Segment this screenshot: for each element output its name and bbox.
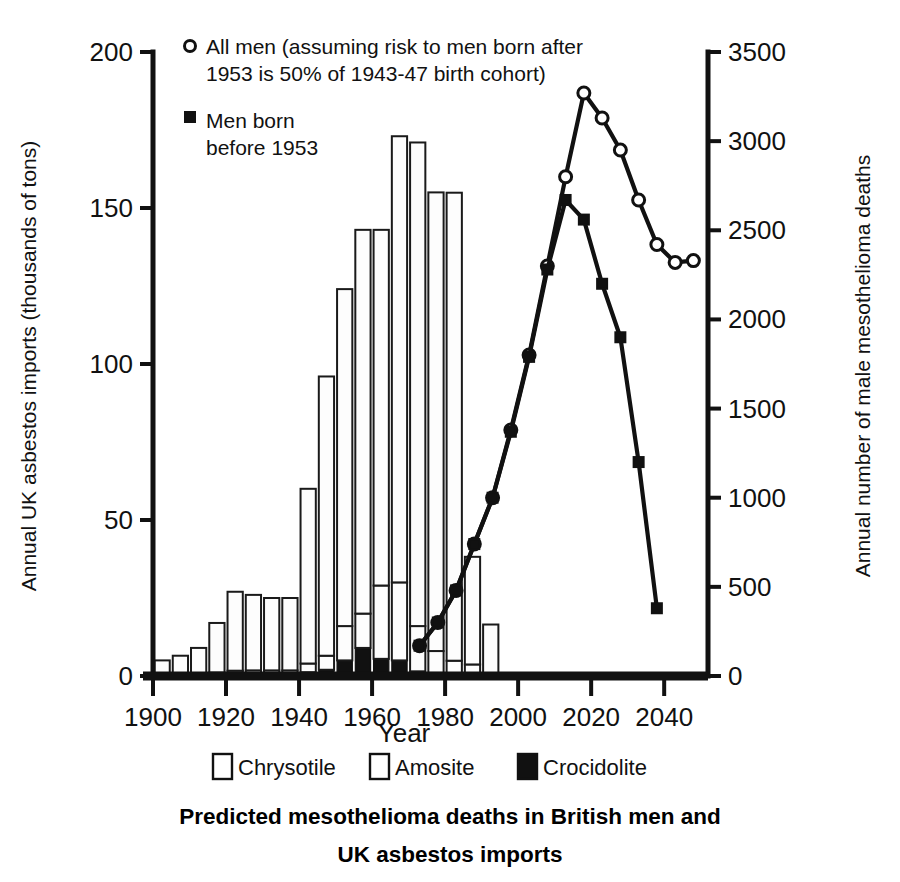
marker-filled-square-2013 — [561, 195, 571, 205]
bars-group — [155, 136, 499, 676]
x-tick-label-1920: 1920 — [197, 702, 255, 732]
x-axis-title: Year — [378, 718, 431, 748]
chrysotile-label: Chrysotile — [238, 755, 336, 780]
legend-series1-line2: 1953 is 50% of 1943-47 birth cohort) — [206, 62, 546, 85]
bar-segment-amosite-1940 — [301, 664, 316, 673]
open-circle-marker — [185, 41, 196, 52]
left-tick-label-0: 0 — [119, 661, 133, 691]
crocidolite-swatch — [518, 754, 537, 779]
left-tick-label-100: 100 — [90, 349, 133, 379]
bar-segment-amosite-1975 — [428, 651, 443, 673]
legend-series1-line1: All men (assuming risk to men born after — [206, 35, 583, 58]
bar-segment-chrysotile-1960 — [374, 230, 389, 586]
series-legend: All men (assuming risk to men born after… — [185, 35, 583, 159]
marker-filled-square-2008 — [542, 265, 552, 275]
left-tick-label-200: 200 — [90, 37, 133, 67]
bar-segment-chrysotile-1970 — [410, 142, 425, 626]
right-axis-title: Annual number of male mesothelioma death… — [851, 155, 874, 578]
marker-filled-square-2003 — [524, 352, 534, 362]
bar-segment-chrysotile-1925 — [246, 595, 261, 671]
marker-filled-square-1993 — [488, 493, 498, 503]
marker-open-circle-2043 — [669, 256, 681, 268]
chart-title-line1: Predicted mesothelioma deaths in British… — [179, 804, 720, 829]
fill-key: Chrysotile Amosite Crocidolite — [213, 754, 647, 780]
x-tick-label-1900: 1900 — [124, 702, 182, 732]
right-tick-label-500: 500 — [728, 572, 771, 602]
x-tick-label-2040: 2040 — [635, 702, 693, 732]
marker-open-circle-2033 — [633, 194, 645, 206]
right-tick-label-2000: 2000 — [728, 304, 786, 334]
chrysotile-swatch — [213, 754, 232, 779]
right-tick-label-2500: 2500 — [728, 215, 786, 245]
bar-segment-chrysotile-1940 — [301, 489, 316, 664]
bar-segment-amosite-1965 — [392, 582, 407, 660]
right-tick-label-1500: 1500 — [728, 394, 786, 424]
bar-segment-chrysotile-1955 — [355, 230, 370, 614]
marker-filled-square-1983 — [451, 585, 461, 595]
marker-open-circle-2023 — [596, 112, 608, 124]
marker-filled-square-1998 — [506, 427, 516, 437]
marker-filled-square-2028 — [615, 332, 625, 342]
bar-segment-chrysotile-1910 — [191, 648, 206, 673]
bar-segment-amosite-1945 — [319, 656, 334, 670]
marker-open-circle-2048 — [687, 255, 699, 267]
legend-series2-line2: before 1953 — [206, 136, 318, 159]
chart-title-line2: UK asbestos imports — [337, 842, 562, 867]
bar-segment-amosite-1950 — [337, 626, 352, 660]
bar-segment-chrysotile-1920 — [228, 592, 243, 671]
amosite-swatch — [370, 754, 389, 779]
bar-segment-chrysotile-1930 — [264, 598, 279, 670]
x-tick-label-2020: 2020 — [562, 702, 620, 732]
bar-segment-chrysotile-1990 — [483, 625, 498, 675]
marker-filled-square-1973 — [415, 641, 425, 651]
bar-segment-chrysotile-1965 — [392, 136, 407, 582]
marker-filled-square-2033 — [634, 457, 644, 467]
bar-segment-chrysotile-1945 — [319, 376, 334, 655]
marker-filled-square-1988 — [469, 539, 479, 549]
amosite-label: Amosite — [395, 755, 474, 780]
chart-svg: 0501001502000500100015002000250030003500… — [0, 0, 900, 882]
bar-segment-chrysotile-1905 — [173, 656, 188, 674]
bar-segment-chrysotile-1985 — [465, 557, 480, 665]
marker-open-circle-2013 — [560, 171, 572, 183]
filled-square-marker — [185, 112, 195, 122]
marker-open-circle-2028 — [614, 144, 626, 156]
left-tick-label-50: 50 — [104, 505, 133, 535]
bar-segment-amosite-1955 — [355, 614, 370, 648]
x-tick-label-1940: 1940 — [270, 702, 328, 732]
legend-series2-line1: Men born — [206, 109, 295, 132]
bar-segment-chrysotile-1935 — [282, 598, 297, 670]
marker-filled-square-2023 — [597, 279, 607, 289]
marker-filled-square-2038 — [652, 603, 662, 613]
right-tick-label-0: 0 — [728, 661, 742, 691]
marker-open-circle-2018 — [578, 87, 590, 99]
bar-segment-amosite-1960 — [374, 586, 389, 659]
marker-filled-square-1978 — [433, 618, 443, 628]
left-axis-title: Annual UK asbestos imports (thousands of… — [17, 141, 40, 592]
bar-segment-chrysotile-1975 — [428, 192, 443, 651]
marker-filled-square-2018 — [579, 215, 589, 225]
bar-segment-chrysotile-1950 — [337, 289, 352, 626]
right-tick-label-3500: 3500 — [728, 37, 786, 67]
chart-figure: 0501001502000500100015002000250030003500… — [0, 0, 900, 882]
left-tick-label-150: 150 — [90, 193, 133, 223]
right-tick-label-1000: 1000 — [728, 483, 786, 513]
marker-open-circle-2038 — [651, 239, 663, 251]
x-tick-label-2000: 2000 — [489, 702, 547, 732]
plot-layer: 0501001502000500100015002000250030003500… — [90, 37, 786, 732]
crocidolite-label: Crocidolite — [543, 755, 647, 780]
bar-segment-chrysotile-1915 — [209, 623, 224, 673]
right-tick-label-3000: 3000 — [728, 126, 786, 156]
